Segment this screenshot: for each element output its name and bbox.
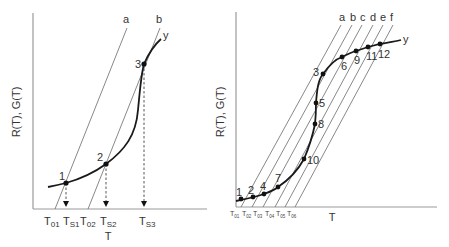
right-line-a	[241, 25, 341, 207]
right-y-axis-label: R(T), G(T)	[214, 87, 226, 138]
left-x-axis-label: T	[105, 230, 112, 242]
right-line-a-label: a	[339, 11, 346, 23]
right-point-6	[340, 55, 345, 60]
tick-TS3: TS3	[139, 215, 156, 229]
right-point-5-label: 5	[319, 97, 325, 109]
left-point-1-label: 1	[59, 170, 65, 182]
right-point-9	[354, 49, 359, 54]
tick-T03: T03	[253, 210, 263, 219]
right-chart: R(T), G(T) a b c d e f y 1 2 4 7 10	[214, 11, 437, 223]
arrow-down-icon	[63, 201, 69, 207]
diagram-canvas: R(T), G(T) a b y 1 2 3 T01 TS1 T02 TS2 T…	[0, 0, 449, 247]
left-point-2-label: 2	[97, 151, 103, 163]
left-chart: R(T), G(T) a b y 1 2 3 T01 TS1 T02 TS2 T…	[10, 13, 207, 242]
right-point-1-label: 1	[236, 186, 242, 198]
tick-TS1: TS1	[63, 215, 80, 229]
right-line-b	[252, 25, 352, 207]
tick-T05: T05	[276, 210, 286, 219]
right-point-5	[314, 101, 319, 106]
right-point-6-label: 6	[341, 60, 347, 72]
right-point-10	[302, 157, 307, 162]
right-point-9-label: 9	[354, 54, 360, 66]
tick-T01: T01	[230, 210, 240, 219]
right-point-7	[276, 185, 281, 190]
right-x-axis-label: T	[329, 211, 336, 223]
right-point-12	[378, 42, 383, 47]
right-point-11	[366, 45, 371, 50]
right-point-4	[262, 192, 267, 197]
right-point-3	[321, 72, 326, 77]
tick-T06: T06	[287, 210, 297, 219]
right-line-b-label: b	[350, 11, 356, 23]
left-line-a-label: a	[123, 13, 130, 25]
left-point-3	[141, 61, 146, 66]
arrow-down-icon	[141, 201, 147, 207]
right-line-c-label: c	[360, 11, 366, 23]
left-point-3-label: 3	[135, 58, 141, 70]
tick-T04: T04	[265, 210, 275, 219]
right-point-8-label: 8	[318, 118, 324, 130]
left-y-axis-label: R(T), G(T)	[10, 87, 22, 138]
tick-TS2: TS2	[100, 215, 117, 229]
right-line-f-label: f	[390, 11, 394, 23]
right-x-ticks: T01 T02 T03 T04 T05 T06	[230, 210, 297, 219]
right-point-8	[313, 122, 318, 127]
right-point-3-label: 3	[313, 66, 319, 78]
right-point-11-label: 11	[366, 50, 377, 62]
right-point-10-label: 10	[307, 154, 319, 166]
left-curve-y-label: y	[163, 29, 169, 41]
tick-T01: T01	[44, 215, 60, 229]
right-line-d	[275, 25, 373, 207]
arrow-down-icon	[103, 201, 109, 207]
right-point-12-label: 12	[378, 48, 390, 60]
right-point-7-label: 7	[275, 172, 281, 184]
left-line-b-label: b	[156, 13, 162, 25]
left-x-ticks: T01 TS1 T02 TS2 TS3	[44, 215, 156, 229]
left-point-2	[103, 161, 108, 166]
right-curve-y-label: y	[403, 33, 409, 45]
tick-T02: T02	[80, 215, 96, 229]
right-point-4-label: 4	[260, 180, 266, 192]
right-point-2-label: 2	[248, 184, 254, 196]
right-line-d-label: d	[370, 11, 376, 23]
right-line-e-label: e	[380, 11, 386, 23]
tick-T02: T02	[242, 210, 252, 219]
